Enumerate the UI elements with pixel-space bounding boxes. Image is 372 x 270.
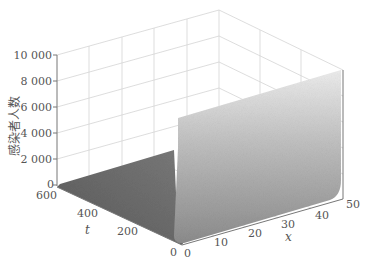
x-tick-label: 50 (346, 198, 360, 211)
t-axis-label: t (85, 223, 90, 237)
t-tick-label: 600 (36, 189, 57, 202)
t-tick-label: 0 (170, 246, 177, 259)
t-tick-label: 200 (117, 225, 138, 238)
z-tick-label: 6 000 (21, 101, 53, 114)
z-axis-label: 感染者人数 (7, 96, 22, 156)
t-tick-label: 400 (77, 207, 98, 220)
z-tick-label: 10 000 (14, 49, 53, 62)
z-tick-label: 2 000 (21, 153, 53, 166)
x-tick-label: 20 (248, 227, 262, 240)
x-tick-label: 40 (315, 209, 329, 222)
z-tick-label: 8 000 (21, 75, 53, 88)
surface-3d-chart: 10 000 8 000 6 000 4 000 2 000 0 感染者人数 6… (0, 0, 372, 270)
z-tick-label: 4 000 (21, 127, 53, 140)
x-axis-label: x (285, 230, 292, 244)
x-tick-label: 10 (214, 236, 228, 249)
x-tick-label: 0 (184, 247, 191, 260)
